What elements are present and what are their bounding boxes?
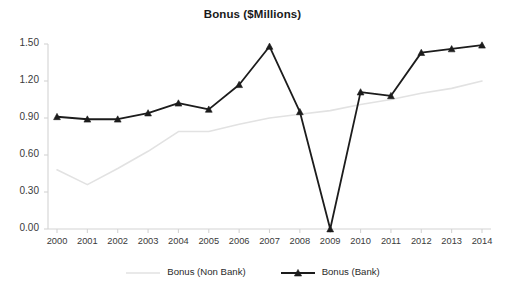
y-axis-tick-label: 0.30 <box>0 185 39 196</box>
legend-item-bank[interactable]: Bonus (Bank) <box>280 265 380 277</box>
y-axis-tick-label: 1.50 <box>0 37 39 48</box>
legend-swatch-icon <box>280 265 316 277</box>
data-point-marker <box>266 43 273 49</box>
legend-item-non-bank[interactable]: Bonus (Non Bank) <box>125 265 245 277</box>
series-line-non-bank <box>57 81 482 185</box>
legend-swatch-icon <box>125 265 161 277</box>
series-lines <box>57 45 482 229</box>
y-axis-tick-label: 0.60 <box>0 148 39 159</box>
chart-svg <box>0 0 505 300</box>
legend-label: Bonus (Bank) <box>322 266 380 277</box>
x-axis-tick-label: 2014 <box>462 236 502 246</box>
y-axis-tick-label: 0.00 <box>0 222 39 233</box>
legend-label: Bonus (Non Bank) <box>167 266 245 277</box>
y-axis-tick-label: 0.90 <box>0 111 39 122</box>
y-axis-tick-label: 1.20 <box>0 74 39 85</box>
chart-container: Bonus ($Millions) 0.000.300.600.901.201.… <box>0 0 505 300</box>
axis-lines <box>44 44 491 233</box>
chart-legend: Bonus (Non Bank)Bonus (Bank) <box>0 265 505 277</box>
series-line-bank <box>57 45 482 229</box>
data-point-markers <box>54 42 486 232</box>
plot-area: 0.000.300.600.901.201.50 200020012002200… <box>0 0 505 300</box>
data-point-marker <box>296 108 303 114</box>
